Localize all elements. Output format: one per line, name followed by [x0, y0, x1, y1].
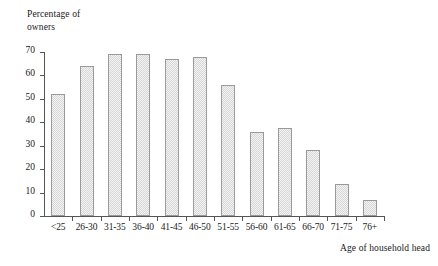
bar: [165, 59, 179, 216]
x-tick: [157, 216, 158, 221]
x-axis-label: <25: [44, 222, 72, 232]
y-axis-title-line-1: Percentage of: [27, 8, 80, 21]
bar: [108, 54, 122, 216]
bar: [250, 132, 264, 216]
bar: [363, 200, 377, 216]
x-axis-label: 26-30: [72, 222, 100, 232]
x-tick: [72, 216, 73, 221]
bar: [335, 184, 349, 216]
y-tick-label: 50: [26, 92, 36, 102]
x-axis-title: Age of household head: [340, 243, 430, 253]
bar: [278, 128, 292, 216]
y-tick-10: 10: [40, 193, 45, 194]
x-axis-label: 61-65: [271, 222, 299, 232]
bar: [80, 66, 94, 216]
x-axis-label: 56-60: [242, 222, 270, 232]
x-tick: [214, 216, 215, 221]
y-tick-50: 50: [40, 99, 45, 100]
y-tick-label: 30: [26, 139, 36, 149]
y-axis-title-line-2: owners: [27, 21, 80, 34]
x-axis-label: 66-70: [299, 222, 327, 232]
y-tick-label: 10: [26, 186, 36, 196]
x-axis-label: 41-45: [157, 222, 185, 232]
bar: [221, 85, 235, 216]
bar: [193, 57, 207, 216]
x-axis-label: 51-55: [214, 222, 242, 232]
x-tick: [186, 216, 187, 221]
y-tick-label: 0: [30, 209, 35, 219]
bar: [51, 94, 65, 216]
x-tick: [384, 216, 385, 221]
bar: [306, 150, 320, 216]
plot-area: 010203040506070 <2526-3031-3536-4041-454…: [44, 52, 384, 216]
x-tick: [327, 216, 328, 221]
x-tick: [101, 216, 102, 221]
y-tick-label: 20: [26, 162, 36, 172]
x-axis-label: 36-40: [129, 222, 157, 232]
x-axis-label: 31-35: [101, 222, 129, 232]
y-tick-label: 70: [26, 45, 36, 55]
y-axis-line: [44, 52, 45, 216]
bar-chart: Percentage of owners 010203040506070 <25…: [0, 0, 438, 266]
x-axis-label: 76+: [356, 222, 384, 232]
y-tick-label: 60: [26, 68, 36, 78]
x-axis-label: 46-50: [186, 222, 214, 232]
y-axis-title: Percentage of owners: [27, 8, 80, 33]
y-tick-20: 20: [40, 169, 45, 170]
y-tick-70: 70: [40, 52, 45, 53]
x-tick: [356, 216, 357, 221]
x-tick: [129, 216, 130, 221]
x-tick: [271, 216, 272, 221]
x-tick: [299, 216, 300, 221]
bar: [136, 54, 150, 216]
x-tick: [242, 216, 243, 221]
y-tick-label: 40: [26, 115, 36, 125]
y-tick-40: 40: [40, 122, 45, 123]
x-axis-label: 71-75: [327, 222, 355, 232]
y-tick-0: 0: [40, 216, 45, 217]
y-tick-60: 60: [40, 75, 45, 76]
y-tick-30: 30: [40, 146, 45, 147]
